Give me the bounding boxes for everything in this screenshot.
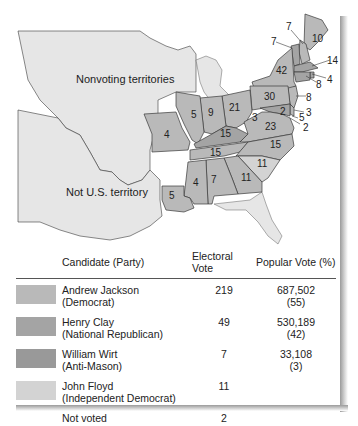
electoral-vote: 11 [192, 375, 256, 407]
ev-illinois: 5 [191, 109, 197, 120]
ev-indiana: 9 [208, 107, 214, 118]
ev-louisiana: 5 [169, 190, 175, 201]
ev-vermont: 7 [271, 36, 277, 47]
electoral-vote: 219 [192, 279, 256, 312]
legend-header-row: Candidate (Party) Electoral Vote Popular… [16, 248, 336, 279]
popular-vote: 530,189 [256, 316, 336, 328]
ev-ohio: 21 [229, 102, 241, 113]
popular-vote: 687,502 [256, 284, 336, 296]
ev-north-carolina: 15 [270, 139, 282, 150]
michigan-territory [196, 56, 230, 100]
candidate-name: Not voted [62, 407, 192, 426]
popular-pct: (42) [256, 328, 336, 340]
ev-kentucky: 15 [220, 128, 232, 139]
legend-row-wirt: William Wirt(Anti-Mason) 7 33,108(3) [16, 343, 336, 375]
state-maine [304, 14, 328, 50]
candidate-party: (Democrat) [62, 296, 192, 308]
ev-missouri: 4 [164, 129, 170, 140]
candidate-party: (Independent Democrat) [62, 392, 192, 404]
not-us-territory-label: Not U.S. territory [66, 186, 148, 198]
ev-south-carolina: 11 [257, 158, 268, 169]
electoral-vote: 7 [192, 343, 256, 375]
election-map: Nonvoting territories Not U.S. territory… [0, 0, 340, 248]
color-swatch-clay [16, 317, 56, 336]
ev-maryland-clay: 3 [252, 112, 258, 123]
ev-new-hampshire: 7 [286, 21, 292, 32]
candidate-name: John Floyd [62, 380, 192, 392]
ev-rhode-island: 4 [327, 74, 333, 85]
ev-new-york: 42 [276, 65, 288, 76]
candidate-party: (Anti-Mason) [62, 360, 192, 372]
candidate-name: Henry Clay [62, 316, 192, 328]
electoral-vote: 49 [192, 311, 256, 343]
ev-new-jersey: 8 [306, 92, 312, 103]
results-legend-table: Candidate (Party) Electoral Vote Popular… [16, 248, 336, 426]
ev-massachusetts: 14 [327, 55, 339, 66]
ev-maine: 10 [312, 33, 324, 44]
popular-pct: (3) [256, 360, 336, 372]
electoral-vote: 2 [192, 407, 256, 426]
ev-mississippi: 4 [193, 177, 199, 188]
legend-row-jackson: Andrew Jackson(Democrat) 219 687,502(55) [16, 279, 336, 312]
ev-georgia: 11 [241, 172, 252, 183]
ev-tennessee: 15 [210, 147, 222, 158]
ev-alabama: 7 [211, 174, 217, 185]
header-electoral: Electoral Vote [192, 248, 256, 279]
ev-pennsylvania: 30 [264, 91, 276, 102]
color-swatch-jackson [16, 285, 56, 304]
legend-row-not-voted: Not voted 2 [16, 407, 336, 426]
candidate-name: Andrew Jackson [62, 284, 192, 296]
ev-virginia: 23 [265, 121, 277, 132]
ev-delaware: 3 [306, 107, 312, 118]
candidate-name: William Wirt [62, 348, 192, 360]
page-shadow-right [340, 16, 348, 412]
state-new-york [252, 48, 296, 90]
florida-territory [214, 192, 282, 244]
header-candidate: Candidate (Party) [62, 248, 192, 279]
ev-virginia-small: 2 [280, 106, 286, 117]
color-swatch-floyd [16, 381, 56, 400]
popular-pct: (55) [256, 296, 336, 308]
nonvoting-territories-label: Nonvoting territories [76, 73, 175, 85]
ev-connecticut: 8 [316, 79, 322, 90]
header-swatch [16, 248, 62, 279]
candidate-party: (National Republican) [62, 328, 192, 340]
header-popular: Popular Vote (%) [256, 248, 336, 279]
color-swatch-wirt [16, 349, 56, 368]
legend-row-floyd: John Floyd(Independent Democrat) 11 [16, 375, 336, 407]
popular-vote: 33,108 [256, 348, 336, 360]
state-rhode-island [310, 72, 314, 78]
legend-row-clay: Henry Clay(National Republican) 49 530,1… [16, 311, 336, 343]
ev-maryland-split: 2 [303, 122, 309, 133]
